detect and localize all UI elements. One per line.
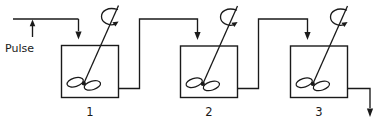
- tank-2: 2: [181, 6, 238, 119]
- pulse-marker-arrow-icon: [30, 20, 36, 27]
- pipe-tank1-to-tank2-path: [119, 19, 198, 89]
- tank-1: 1: [62, 6, 119, 120]
- pipe-tank2-to-tank3-path: [238, 19, 308, 89]
- tank-3-impeller-blade-right: [312, 79, 331, 92]
- pulse-label: Pulse: [5, 42, 34, 55]
- tank-2-impeller-hub: [201, 82, 205, 86]
- pipe-tank3-outlet-arrow-icon: [367, 109, 373, 118]
- pipe-tank2-to-tank3: [238, 19, 311, 89]
- tank-1-impeller-blade-left: [66, 76, 85, 89]
- pulse-inlet-arrow-icon: [75, 32, 81, 40]
- tank-1-impeller-blade-right: [83, 79, 102, 92]
- process-flow-diagram: Pulse 1: [0, 0, 392, 123]
- diagram-canvas: Pulse 1: [0, 0, 392, 123]
- pipe-tank1-to-tank2: [119, 19, 201, 89]
- tank-1-number-label: 1: [86, 105, 93, 119]
- tank-3-impeller-hub: [311, 82, 315, 86]
- pipe-tank1-to-tank2-arrow-icon: [194, 32, 200, 40]
- pipe-tank3-outlet: [348, 89, 374, 118]
- pipe-tank2-to-tank3-arrow-icon: [304, 32, 310, 40]
- tank-2-impeller-blade-right: [202, 79, 221, 92]
- tank-3: 3: [291, 6, 348, 119]
- pipe-tank3-outlet-path: [348, 89, 371, 109]
- tank-2-impeller-blade-left: [185, 76, 204, 89]
- tank-3-number-label: 3: [315, 105, 322, 119]
- pulse-input-group: Pulse: [5, 19, 82, 55]
- tank-2-number-label: 2: [205, 105, 212, 119]
- tank-3-impeller-blade-left: [295, 76, 314, 89]
- tank-1-impeller-hub: [82, 81, 86, 85]
